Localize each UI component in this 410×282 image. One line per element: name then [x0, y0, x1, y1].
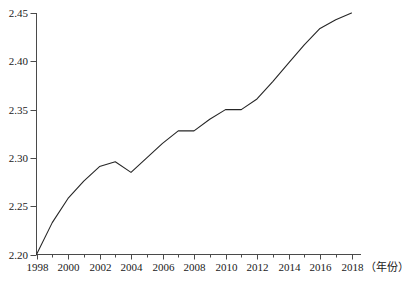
data-series-line [37, 13, 352, 255]
y-axis-tick-label: 2.45 [0, 8, 28, 19]
x-axis-title: （年份） [365, 262, 409, 273]
y-axis-tick-label: 2.20 [0, 250, 28, 261]
y-axis-tick-label: 2.35 [0, 105, 28, 116]
chart-plot-area [0, 0, 410, 282]
line-chart: 2.202.252.302.352.402.45 199820002002200… [0, 0, 410, 282]
y-axis-ticks [31, 14, 37, 256]
axis-lines [37, 13, 362, 255]
y-axis-tick-label: 2.25 [0, 201, 28, 212]
y-axis-tick-label: 2.30 [0, 153, 28, 164]
y-axis-tick-label: 2.40 [0, 56, 28, 67]
